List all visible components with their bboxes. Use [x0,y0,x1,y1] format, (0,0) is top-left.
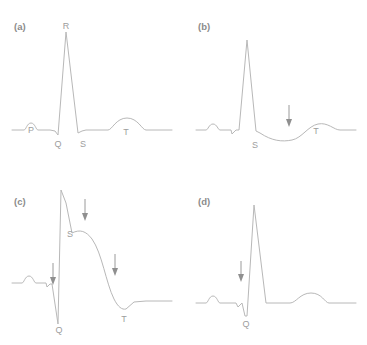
panel-d-plot: (d) Q [184,173,367,345]
panel-b-plot: (b) S T [184,0,367,173]
arrow-pathological-q [238,261,244,282]
panel-b-label: (b) [198,21,210,32]
wave-label-s: S [80,139,86,149]
arrow-st-depression [286,105,292,127]
wave-label-q: Q [242,319,249,329]
arrow-t-inversion [112,254,118,276]
panel-b: (b) S T [184,0,367,173]
panel-a-label: (a) [14,21,26,32]
wave-label-t: T [123,127,129,137]
wave-label-r: R [63,21,70,31]
wave-label-s: S [252,140,258,150]
panel-d-label: (d) [198,196,210,207]
panel-a-trace [12,32,172,135]
panel-c-plot: (c) S Q T [0,173,184,345]
wave-label-s: S [67,229,73,239]
arrow-st-elevation [82,199,88,221]
panel-c-label: (c) [14,196,26,207]
wave-label-q: Q [55,325,62,335]
wave-label-q: Q [54,139,61,149]
wave-label-t: T [121,314,127,324]
panel-a: (a) P R Q S T [0,0,184,173]
wave-label-p: P [28,125,34,135]
panel-c: (c) S Q T [0,173,184,345]
ecg-figure: (a) P R Q S T (b) S T (c) S Q T [0,0,367,345]
panel-d-trace [196,205,356,316]
arrow-pathological-q [50,263,56,285]
panel-c-trace [12,190,172,324]
wave-label-t: T [313,126,319,136]
panel-b-trace [196,40,356,141]
panel-d: (d) Q [184,173,367,345]
panel-a-plot: (a) P R Q S T [0,0,184,173]
